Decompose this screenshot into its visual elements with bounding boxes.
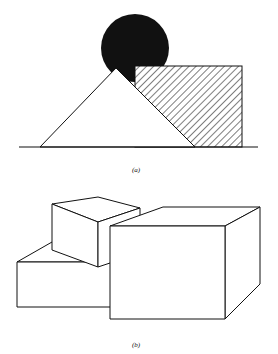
figure-a [19,14,258,147]
large-box [110,207,260,319]
diagram-canvas [0,0,278,354]
figure-b [17,197,260,319]
figure-a-caption: (a) [132,166,140,174]
figure-b-caption: (b) [132,341,140,349]
